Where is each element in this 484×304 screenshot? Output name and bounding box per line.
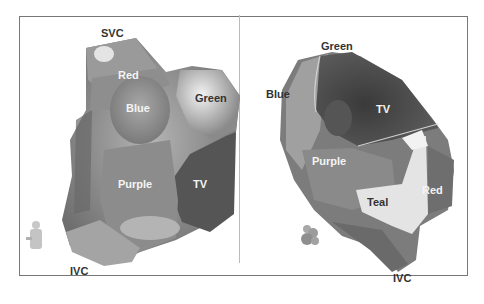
left-label-tv: TV [193,178,207,190]
right-label-green: Green [321,40,353,52]
right-label-blue: Blue [266,88,290,100]
left-label-ivc: IVC [70,265,88,277]
left-heart-map-image [0,0,242,304]
left-label-purple: Purple [118,178,152,190]
left-label-green: Green [195,92,227,104]
right-panel: Green Blue TV Purple Teal Red IVC [242,0,484,304]
torso-figure-icon [24,219,46,253]
right-label-teal: Teal [367,196,388,208]
left-label-blue: Blue [126,102,150,114]
left-panel: SVC Red Blue Green Purple TV IVC [0,0,242,304]
right-heart-map-image [242,0,484,304]
right-label-purple: Purple [312,155,346,167]
torso-figure-icon [297,223,323,249]
right-label-ivc: IVC [393,272,411,284]
right-label-red: Red [422,184,443,196]
left-label-svc: SVC [101,27,124,39]
right-label-tv: TV [376,103,390,115]
left-label-red: Red [118,69,139,81]
